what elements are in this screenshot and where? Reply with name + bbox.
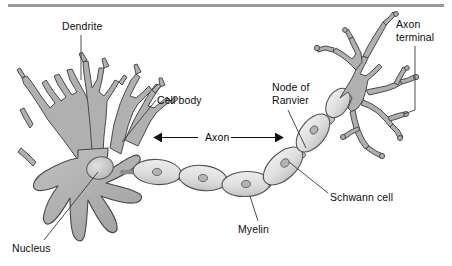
cell-body-soma bbox=[33, 148, 141, 241]
label-axon: Axon bbox=[203, 131, 231, 144]
leader-myelin bbox=[250, 196, 258, 221]
label-node-of-ranvier-line2: Ranvier bbox=[272, 94, 309, 106]
figure-canvas: Dendrite Cell body Node ofRanvier Axonte… bbox=[0, 0, 452, 266]
label-node-of-ranvier: Node ofRanvier bbox=[272, 81, 309, 106]
label-dendrite: Dendrite bbox=[62, 20, 103, 33]
label-node-of-ranvier-line1: Node of bbox=[272, 81, 309, 93]
label-myelin: Myelin bbox=[238, 223, 269, 236]
leader-schwann-cell bbox=[289, 162, 328, 193]
label-schwann-cell: Schwann cell bbox=[330, 191, 393, 204]
myelin-segment bbox=[178, 163, 229, 194]
label-cell-body: Cell body bbox=[157, 94, 202, 107]
label-nucleus: Nucleus bbox=[12, 242, 51, 255]
myelin-segment bbox=[132, 158, 182, 186]
label-axon-terminal-line2: terminal bbox=[396, 31, 434, 43]
label-axon-terminal-line1: Axon bbox=[396, 18, 420, 30]
label-axon-terminal: Axonterminal bbox=[396, 18, 434, 43]
